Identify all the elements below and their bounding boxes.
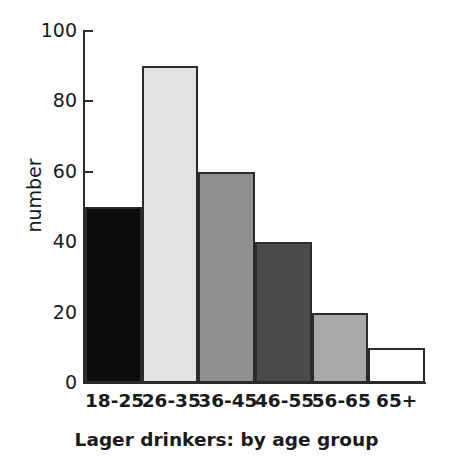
x-axis-tick-label: 18-25 <box>85 389 142 413</box>
x-axis-tick-labels: 18-2526-3536-4546-5556-6565+ <box>85 389 425 415</box>
y-axis-tick-label: 100 <box>31 21 77 40</box>
bar-46-55 <box>255 242 312 383</box>
x-axis-tick-label: 56-65 <box>312 389 369 413</box>
x-axis-tick-label: 65+ <box>368 389 425 413</box>
y-axis-tick-label: 0 <box>31 373 77 392</box>
bar-series <box>85 31 425 383</box>
x-axis-tick-label: 46-55 <box>255 389 312 413</box>
y-axis-tick-label: 80 <box>31 91 77 110</box>
bar-56-65 <box>312 313 369 383</box>
x-axis-tick-label: 26-35 <box>142 389 199 413</box>
bar-65+ <box>368 348 425 383</box>
y-axis-tick-label: 20 <box>31 303 77 322</box>
y-axis-title: number <box>25 156 44 236</box>
chart-title: Lager drinkers: by age group <box>0 428 453 452</box>
x-axis-tick-label: 36-45 <box>198 389 255 413</box>
bar-36-45 <box>198 172 255 383</box>
bar-26-35 <box>142 66 199 383</box>
bar-chart-figure: 020406080100 number 18-2526-3536-4546-55… <box>0 0 453 458</box>
bar-18-25 <box>85 207 142 383</box>
